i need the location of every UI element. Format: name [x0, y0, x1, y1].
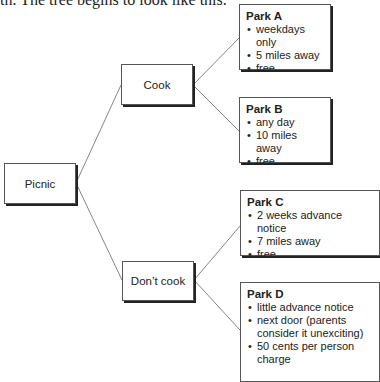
park-detail: next door (parents consider it unexcitin…	[247, 314, 367, 340]
node-cook: Cook	[121, 64, 193, 105]
connector-picnic-cook	[76, 85, 121, 183]
park-title: Park B	[246, 102, 324, 116]
park-title: Park D	[247, 287, 373, 301]
park-detail: 7 miles away	[247, 235, 373, 248]
node-park-b: Park B any day 10 miles away free	[239, 97, 331, 163]
connector-cook-parkb	[193, 85, 239, 131]
node-park-d: Park D little advance notice next door (…	[240, 282, 380, 382]
park-detail: weekdays only	[246, 23, 324, 49]
connector-dontcook-parkd	[194, 280, 240, 330]
park-detail: free	[247, 248, 373, 261]
node-dont-cook: Don’t cook	[122, 261, 194, 301]
node-label: Cook	[144, 79, 171, 91]
park-detail: any day	[246, 116, 324, 129]
node-park-a: Park A weekdays only 5 miles away free	[239, 4, 331, 70]
park-title: Park C	[247, 195, 373, 209]
park-detail: 50 cents per person charge	[247, 340, 367, 366]
connector-picnic-dontcook	[76, 183, 122, 280]
node-park-c: Park C 2 weeks advance notice 7 miles aw…	[240, 190, 380, 256]
connector-dontcook-parkc	[194, 226, 240, 280]
node-picnic: Picnic	[4, 163, 76, 204]
park-detail: 5 miles away	[246, 49, 324, 62]
park-title: Park A	[246, 9, 324, 23]
node-label: Picnic	[25, 178, 56, 190]
park-detail: 2 weeks advance notice	[247, 209, 373, 235]
park-detail: free	[246, 62, 324, 75]
park-detail: free	[246, 155, 324, 168]
park-detail: 10 miles away	[246, 129, 324, 155]
node-label: Don’t cook	[131, 275, 185, 287]
park-detail: little advance notice	[247, 301, 367, 314]
connector-cook-parka	[193, 38, 239, 85]
